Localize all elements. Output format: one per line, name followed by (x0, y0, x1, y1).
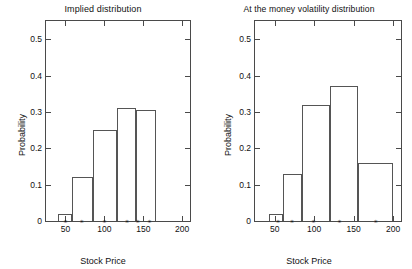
y-axis-tick (185, 112, 190, 113)
x-axis-tick-label: 200 (175, 224, 189, 234)
bar-series (46, 21, 190, 221)
y-axis-tick (255, 76, 260, 77)
y-axis-tick (185, 185, 190, 186)
y-axis-tick-label: 0 (37, 216, 42, 226)
y-axis-tick-label: 0.2 (30, 143, 42, 153)
x-axis-tick (354, 216, 355, 221)
x-axis-tick (182, 216, 183, 221)
x-axis-tick-label: 150 (347, 224, 361, 234)
asterisk-marker-icon: * (148, 220, 152, 227)
y-axis-tick (255, 185, 260, 186)
x-axis-tick-label: 200 (386, 224, 400, 234)
asterisk-marker-icon: * (125, 220, 129, 227)
y-axis-tick (46, 221, 51, 222)
asterisk-marker-icon: * (103, 220, 107, 227)
x-axis-tick (182, 21, 183, 26)
x-axis-tick (104, 21, 105, 26)
asterisk-marker-icon: * (136, 220, 140, 227)
y-axis-tick (46, 76, 51, 77)
x-axis-tick (393, 21, 394, 26)
bar (72, 177, 93, 221)
bar (330, 86, 358, 221)
y-axis-tick (185, 76, 190, 77)
chart-panel-atm-volatility-distribution: At the money volatility distribution Pro… (206, 0, 412, 269)
y-axis-tick (46, 112, 51, 113)
asterisk-marker-icon: * (276, 220, 280, 227)
y-axis-tick (396, 148, 401, 149)
y-axis-tick (185, 148, 190, 149)
asterisk-marker-icon: * (312, 220, 316, 227)
bar (136, 110, 155, 221)
asterisk-marker-icon: * (338, 220, 342, 227)
y-axis-tick (396, 76, 401, 77)
y-axis-tick (255, 148, 260, 149)
x-axis-tick (143, 21, 144, 26)
asterisk-marker-icon: * (80, 220, 84, 227)
y-axis-tick-label: 0.3 (30, 107, 42, 117)
bar-series (255, 21, 401, 221)
y-axis-tick-label: 0.3 (239, 107, 251, 117)
x-axis-tick (143, 216, 144, 221)
y-axis-label: Probability (17, 113, 27, 155)
x-axis-label: Stock Price (0, 256, 206, 266)
plot-area: 00.10.20.30.40.550100150200****** (45, 20, 191, 222)
y-axis-tick-label: 0.4 (239, 71, 251, 81)
figure-panels: Implied distribution Probability 00.10.2… (0, 0, 412, 269)
y-axis-tick (396, 185, 401, 186)
plot-area: 00.10.20.30.40.550100150200***** (254, 20, 402, 222)
x-axis-label: Stock Price (206, 256, 412, 266)
y-axis-tick-label: 0.5 (239, 34, 251, 44)
chart-title: Implied distribution (0, 4, 206, 14)
bar (302, 105, 330, 221)
y-axis-tick (185, 39, 190, 40)
chart-title: At the money volatility distribution (206, 4, 412, 14)
y-axis-tick (46, 148, 51, 149)
asterisk-marker-icon: * (290, 220, 294, 227)
asterisk-marker-icon: * (374, 220, 378, 227)
bar (117, 108, 136, 221)
bar (283, 174, 302, 221)
y-axis-tick (255, 112, 260, 113)
x-axis-tick (393, 216, 394, 221)
x-axis-tick (65, 21, 66, 26)
y-axis-tick-label: 0.1 (30, 180, 42, 190)
y-axis-tick-label: 0.2 (239, 143, 251, 153)
x-axis-tick (314, 21, 315, 26)
y-axis-tick-label: 0 (246, 216, 251, 226)
y-axis-tick (396, 221, 401, 222)
y-axis-tick (46, 185, 51, 186)
y-axis-tick (396, 112, 401, 113)
bar (93, 130, 117, 221)
x-axis-tick (275, 21, 276, 26)
bar (358, 163, 393, 221)
y-axis-tick-label: 0.4 (30, 71, 42, 81)
y-axis-tick (396, 39, 401, 40)
chart-panel-implied-distribution: Implied distribution Probability 00.10.2… (0, 0, 206, 269)
y-axis-tick-label: 0.5 (30, 34, 42, 44)
y-axis-tick (255, 39, 260, 40)
y-axis-tick (185, 221, 190, 222)
y-axis-tick (46, 39, 51, 40)
x-axis-tick (354, 21, 355, 26)
y-axis-tick (255, 221, 260, 222)
y-axis-tick-label: 0.1 (239, 180, 251, 190)
asterisk-marker-icon: * (64, 220, 68, 227)
y-axis-label: Probability (223, 113, 233, 155)
